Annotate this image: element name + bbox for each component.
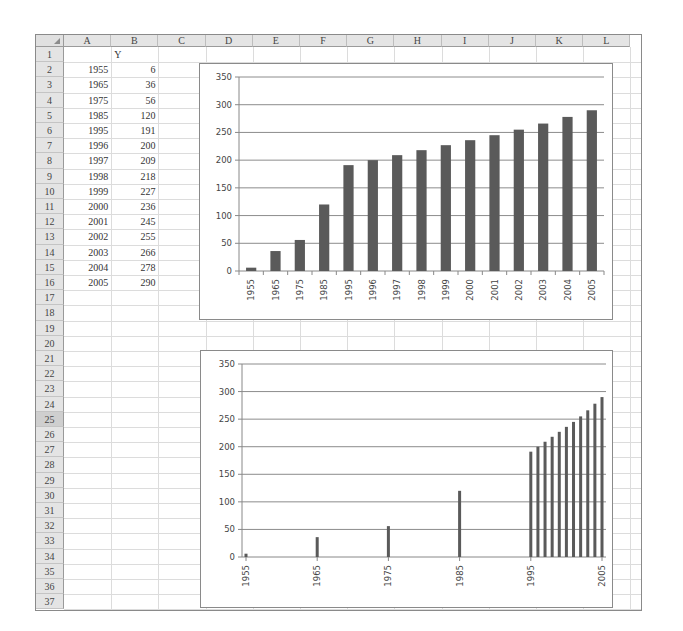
x-tick-label: 1965 <box>312 565 322 587</box>
category-axis-bar-chart[interactable]: 0501001502002503003501955196519751985199… <box>199 63 613 320</box>
row-header-2[interactable]: 2 <box>36 62 64 77</box>
row-header-22[interactable]: 22 <box>36 366 64 381</box>
cell-a8[interactable]: 1997 <box>64 153 111 168</box>
cell-a3[interactable]: 1965 <box>64 77 111 92</box>
cell-a16[interactable]: 2005 <box>64 275 111 290</box>
cell-a6[interactable]: 1995 <box>64 123 111 138</box>
column-header-i[interactable]: I <box>442 35 489 47</box>
cell-a11[interactable]: 2000 <box>64 199 111 214</box>
row-header-17[interactable]: 17 <box>36 290 64 305</box>
cell-b2[interactable]: 6 <box>111 62 158 77</box>
column-header-l[interactable]: L <box>583 35 630 47</box>
cell-b3[interactable]: 36 <box>111 77 158 92</box>
row-header-20[interactable]: 20 <box>36 336 64 351</box>
row-header-4[interactable]: 4 <box>36 93 64 108</box>
column-header-f[interactable]: F <box>300 35 347 47</box>
column-header-k[interactable]: K <box>536 35 583 47</box>
cell-b6[interactable]: 191 <box>111 123 158 138</box>
x-tick-label: 1975 <box>295 279 305 301</box>
cell-b15[interactable]: 278 <box>111 260 158 275</box>
cell-b10[interactable]: 227 <box>111 184 158 199</box>
row-gridline <box>64 336 641 337</box>
cell-b8[interactable]: 209 <box>111 153 158 168</box>
x-tick-label: 1996 <box>368 279 378 301</box>
column-header-d[interactable]: D <box>206 35 253 47</box>
cell-b7[interactable]: 200 <box>111 138 158 153</box>
cell-a10[interactable]: 1999 <box>64 184 111 199</box>
column-header-a[interactable]: A <box>64 35 111 47</box>
select-all-button[interactable] <box>36 35 64 47</box>
row-header-25[interactable]: 25 <box>36 412 64 427</box>
row-header-21[interactable]: 21 <box>36 351 64 366</box>
row-header-14[interactable]: 14 <box>36 245 64 260</box>
x-tick-label: 2001 <box>490 279 500 301</box>
cell-a4[interactable]: 1975 <box>64 93 111 108</box>
column-header-h[interactable]: H <box>394 35 441 47</box>
row-header-29[interactable]: 29 <box>36 473 64 488</box>
row-header-23[interactable]: 23 <box>36 381 64 396</box>
date-axis-bar-chart[interactable]: 0501001502002503003501955196519751985199… <box>200 350 613 608</box>
row-header-5[interactable]: 5 <box>36 108 64 123</box>
cell-b12[interactable]: 245 <box>111 214 158 229</box>
row-header-35[interactable]: 35 <box>36 564 64 579</box>
cell-b11[interactable]: 236 <box>111 199 158 214</box>
row-header-32[interactable]: 32 <box>36 518 64 533</box>
cell-a9[interactable]: 1998 <box>64 169 111 184</box>
y-tick-label: 250 <box>216 127 232 137</box>
row-header-1[interactable]: 1 <box>36 47 64 62</box>
row-header-34[interactable]: 34 <box>36 549 64 564</box>
bar <box>593 404 596 557</box>
row-header-30[interactable]: 30 <box>36 488 64 503</box>
y-tick-label: 350 <box>216 72 232 82</box>
row-header-3[interactable]: 3 <box>36 77 64 92</box>
x-tick-label: 1995 <box>344 279 354 301</box>
cell-b1[interactable]: Y <box>111 47 158 62</box>
row-header-10[interactable]: 10 <box>36 184 64 199</box>
row-header-12[interactable]: 12 <box>36 214 64 229</box>
x-tick-label: 1997 <box>392 279 402 301</box>
cell-b14[interactable]: 266 <box>111 245 158 260</box>
cell-a15[interactable]: 2004 <box>64 260 111 275</box>
row-header-18[interactable]: 18 <box>36 305 64 320</box>
cell-b16[interactable]: 290 <box>111 275 158 290</box>
cell-b13[interactable]: 255 <box>111 229 158 244</box>
bar <box>458 491 461 557</box>
column-header-c[interactable]: C <box>158 35 205 47</box>
bar <box>343 165 353 271</box>
column-header-e[interactable]: E <box>253 35 300 47</box>
row-header-16[interactable]: 16 <box>36 275 64 290</box>
y-tick-label: 150 <box>216 183 232 193</box>
row-header-19[interactable]: 19 <box>36 321 64 336</box>
cell-a12[interactable]: 2001 <box>64 214 111 229</box>
row-header-13[interactable]: 13 <box>36 229 64 244</box>
cell-b4[interactable]: 56 <box>111 93 158 108</box>
row-header-27[interactable]: 27 <box>36 442 64 457</box>
row-header-15[interactable]: 15 <box>36 260 64 275</box>
row-header-31[interactable]: 31 <box>36 503 64 518</box>
row-header-28[interactable]: 28 <box>36 457 64 472</box>
row-header-36[interactable]: 36 <box>36 579 64 594</box>
row-header-7[interactable]: 7 <box>36 138 64 153</box>
cell-a7[interactable]: 1996 <box>64 138 111 153</box>
cell-a14[interactable]: 2003 <box>64 245 111 260</box>
y-tick-label: 300 <box>216 100 232 110</box>
cell-b9[interactable]: 218 <box>111 169 158 184</box>
row-header-6[interactable]: 6 <box>36 123 64 138</box>
bar <box>536 447 539 557</box>
cell-a2[interactable]: 1955 <box>64 62 111 77</box>
cell-a13[interactable]: 2002 <box>64 229 111 244</box>
column-header-g[interactable]: G <box>347 35 394 47</box>
row-header-26[interactable]: 26 <box>36 427 64 442</box>
cell-a5[interactable]: 1985 <box>64 108 111 123</box>
column-header-j[interactable]: J <box>489 35 536 47</box>
row-header-24[interactable]: 24 <box>36 397 64 412</box>
row-header-33[interactable]: 33 <box>36 533 64 548</box>
row-header-37[interactable]: 37 <box>36 594 64 609</box>
chart-canvas: 0501001502002503003501955196519751985199… <box>201 351 612 607</box>
row-header-8[interactable]: 8 <box>36 153 64 168</box>
row-header-9[interactable]: 9 <box>36 169 64 184</box>
column-header-b[interactable]: B <box>111 35 158 47</box>
cell-b5[interactable]: 120 <box>111 108 158 123</box>
row-header-11[interactable]: 11 <box>36 199 64 214</box>
bar <box>246 268 256 271</box>
